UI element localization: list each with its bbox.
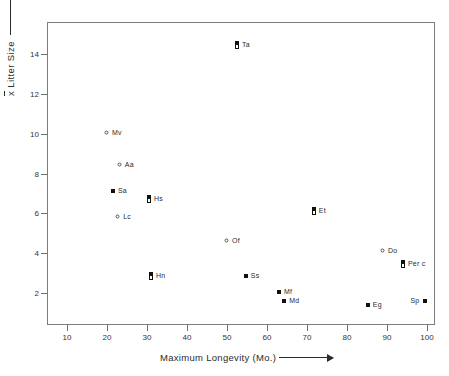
open-circle-marker-icon: [117, 162, 121, 166]
half-filled-square-marker-icon: [401, 260, 405, 268]
x-axis-tick-label: 50: [223, 333, 232, 342]
y-axis-arrow-icon: [6, 0, 15, 35]
filled-square-marker-icon: [244, 274, 248, 278]
x-axis-tick-label: 20: [103, 333, 112, 342]
x-axis-tick: [227, 325, 228, 331]
x-bar-symbol: x: [4, 91, 16, 96]
x-axis-tick-label: 80: [343, 333, 352, 342]
x-axis-tick-label: 70: [303, 333, 312, 342]
open-circle-marker-icon: [225, 238, 229, 242]
data-point-label: Eg: [373, 301, 382, 308]
y-axis-label-rest: Litter Size: [5, 41, 16, 91]
y-axis-tick: [41, 293, 47, 294]
plot-area-frame: [47, 22, 435, 325]
y-axis-tick: [41, 213, 47, 214]
y-axis-label: x Litter Size: [4, 41, 16, 96]
data-point-label: Mv: [112, 129, 122, 136]
y-axis-tick-label: 8: [35, 169, 39, 178]
y-axis-tick: [41, 54, 47, 55]
y-axis-tick: [41, 174, 47, 175]
x-axis-label: Maximum Longevity (Mo.): [160, 352, 276, 363]
data-point-label: Hn: [156, 272, 165, 279]
y-axis-tick-label: 6: [35, 209, 39, 218]
half-filled-square-marker-icon: [312, 207, 316, 215]
open-circle-marker-icon: [116, 215, 120, 219]
y-axis-label-group: x Litter Size: [0, 0, 22, 96]
y-axis-tick-label: 10: [30, 129, 39, 138]
filled-square-marker-icon: [277, 290, 281, 294]
x-axis-tick: [267, 325, 268, 331]
data-point-label: Of: [232, 237, 240, 244]
open-circle-marker-icon: [381, 249, 385, 253]
data-point-label: Lc: [123, 213, 131, 220]
x-axis-tick-label: 30: [143, 333, 152, 342]
y-axis-tick-label: 2: [35, 289, 39, 298]
filled-square-marker-icon: [366, 303, 370, 307]
x-axis-label-group: Maximum Longevity (Mo.): [160, 352, 333, 363]
half-filled-square-marker-icon: [149, 272, 153, 280]
data-point-label: Hs: [154, 195, 163, 202]
y-axis-tick: [41, 94, 47, 95]
y-axis-tick-label: 12: [30, 89, 39, 98]
x-axis-tick-label: 10: [63, 333, 72, 342]
x-axis-tick: [427, 325, 428, 331]
x-axis-arrow-icon: [279, 353, 333, 362]
data-point-label: Per c: [408, 260, 425, 267]
x-axis-tick-label: 60: [263, 333, 272, 342]
data-point-label: Aa: [125, 161, 134, 168]
data-point-label: Mf: [284, 288, 292, 295]
y-axis-tick-label: 4: [35, 249, 39, 258]
filled-square-marker-icon: [423, 299, 427, 303]
x-axis-tick: [347, 325, 348, 331]
x-axis-tick: [147, 325, 148, 331]
data-point-label: Ss: [251, 272, 260, 279]
data-point-label: Et: [319, 207, 326, 214]
x-axis-tick: [387, 325, 388, 331]
y-axis-tick-label: 14: [30, 49, 39, 58]
x-axis-tick-label: 40: [183, 333, 192, 342]
scatter-plot-figure: x Litter Size Maximum Longevity (Mo.) 10…: [0, 0, 449, 376]
data-point-label: Sa: [118, 187, 127, 194]
x-axis-tick: [187, 325, 188, 331]
x-axis-tick: [107, 325, 108, 331]
data-point-label: Do: [388, 247, 397, 254]
x-axis-tick: [67, 325, 68, 331]
filled-square-marker-icon: [282, 299, 286, 303]
x-axis-tick-label: 100: [420, 333, 433, 342]
filled-square-marker-icon: [111, 189, 115, 193]
open-circle-marker-icon: [105, 130, 109, 134]
y-axis-tick: [41, 134, 47, 135]
x-axis-tick-label: 90: [383, 333, 392, 342]
half-filled-square-marker-icon: [147, 195, 151, 203]
x-axis-tick: [307, 325, 308, 331]
data-point-label: Md: [289, 297, 299, 304]
y-axis-tick: [41, 253, 47, 254]
data-point-label: Ta: [242, 41, 250, 48]
half-filled-square-marker-icon: [235, 41, 239, 49]
data-point-label: Sp: [410, 297, 419, 304]
